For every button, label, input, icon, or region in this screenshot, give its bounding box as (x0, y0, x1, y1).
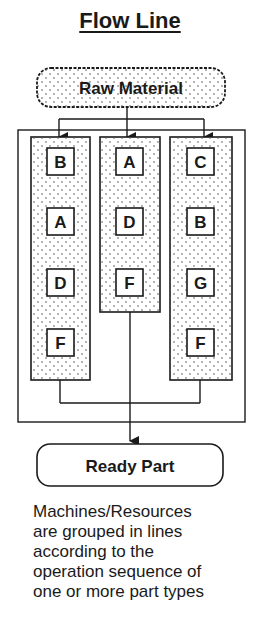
distribution-connectors (59, 107, 204, 137)
machine-d: D (47, 269, 74, 296)
machine-f: F (116, 269, 143, 296)
svg-text:F: F (124, 274, 134, 293)
machine-d: D (116, 208, 143, 235)
svg-text:D: D (54, 274, 66, 293)
svg-text:D: D (123, 213, 135, 232)
machine-b: B (187, 208, 214, 235)
ready-part-node: Ready Part (37, 444, 223, 486)
caption-line: are grouped in lines (33, 522, 258, 542)
line-3: C B G F (170, 137, 232, 380)
machine-a: A (116, 148, 143, 175)
ready-part-label: Ready Part (86, 457, 175, 476)
machine-g: G (187, 269, 214, 296)
line-2: A D F (100, 137, 160, 312)
machine-f: F (187, 329, 214, 356)
line-1: B A D F (31, 137, 90, 380)
machine-b: B (47, 148, 74, 175)
svg-text:B: B (54, 153, 66, 172)
svg-text:G: G (194, 274, 207, 293)
svg-text:C: C (194, 153, 206, 172)
caption-line: Machines/Resources (33, 502, 258, 522)
svg-text:F: F (55, 334, 65, 353)
caption-line: one or more part types (33, 582, 258, 602)
machine-f: F (47, 329, 74, 356)
caption-line: operation sequence of (33, 562, 258, 582)
caption-line: according to the (33, 542, 258, 562)
svg-text:B: B (194, 213, 206, 232)
raw-material-label: Raw Material (79, 79, 183, 98)
svg-text:F: F (195, 334, 205, 353)
raw-material-node: Raw Material (37, 68, 225, 107)
caption: Machines/Resources are grouped in lines … (33, 502, 258, 602)
machine-c: C (187, 148, 214, 175)
svg-text:A: A (54, 213, 66, 232)
svg-text:A: A (123, 153, 135, 172)
machine-a: A (47, 208, 74, 235)
